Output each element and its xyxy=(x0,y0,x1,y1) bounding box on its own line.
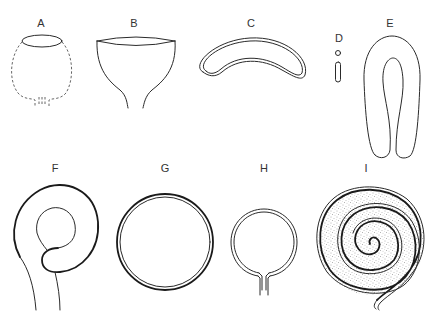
panel-label-a: A xyxy=(37,17,45,29)
open-ring-shape-h xyxy=(231,209,297,295)
panel-g: G xyxy=(117,162,213,290)
vessel-shape-a xyxy=(12,35,72,106)
panel-e: E xyxy=(364,17,420,158)
panel-label-i: I xyxy=(364,162,367,174)
panel-c: C xyxy=(200,17,306,78)
panel-label-g: G xyxy=(161,162,170,174)
panel-label-d: D xyxy=(335,32,343,44)
double-circle-shape-g xyxy=(117,194,213,290)
panel-i: I xyxy=(317,162,424,310)
coiled-loop-shape-f xyxy=(14,185,98,310)
panel-a: A xyxy=(12,17,72,106)
panel-label-c: C xyxy=(247,17,255,29)
panel-label-b: B xyxy=(130,17,137,29)
panel-label-e: E xyxy=(386,17,393,29)
u-loop-shape-e xyxy=(364,36,420,158)
panel-d: D xyxy=(335,32,343,82)
crescent-shape-c xyxy=(200,38,306,78)
capsule-shape-d xyxy=(336,62,341,82)
panel-label-h: H xyxy=(260,162,268,174)
spiral-coil-shape-i xyxy=(317,187,424,310)
panel-f: F xyxy=(14,162,98,310)
panel-b: B xyxy=(97,17,175,108)
panel-label-f: F xyxy=(52,162,59,174)
diagram-figure: A B C D E xyxy=(0,0,436,314)
panel-h: H xyxy=(231,162,297,295)
funnel-shape-b xyxy=(97,37,175,108)
small-circle-d xyxy=(336,51,341,56)
